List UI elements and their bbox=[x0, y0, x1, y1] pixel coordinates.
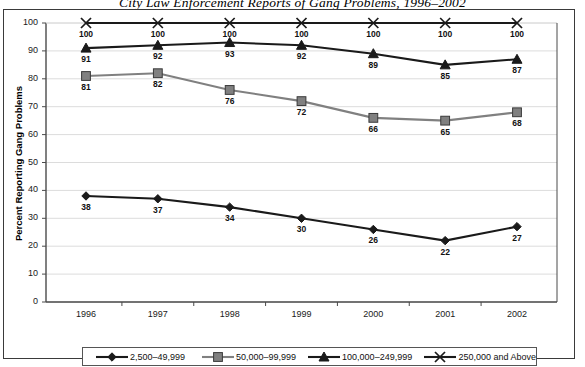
y-axis-tick-label: 80 bbox=[12, 73, 38, 83]
marker-square bbox=[513, 108, 522, 117]
legend-label: 100,000–249,999 bbox=[341, 352, 412, 362]
y-axis-tick-label: 40 bbox=[12, 184, 38, 194]
legend-marker-x-icon bbox=[423, 350, 457, 364]
y-axis-tick-label: 100 bbox=[12, 17, 38, 27]
data-point-label: 87 bbox=[497, 65, 537, 75]
data-point-label: 92 bbox=[282, 51, 322, 61]
data-point-label: 72 bbox=[282, 107, 322, 117]
marker-square bbox=[441, 116, 450, 125]
data-point-label: 68 bbox=[497, 118, 537, 128]
x-axis-tick-label: 1996 bbox=[56, 309, 116, 319]
legend-entry[interactable]: 2,500–49,999 bbox=[83, 348, 201, 365]
marker-square bbox=[297, 97, 306, 106]
legend-entry[interactable]: 250,000 and Above bbox=[423, 348, 536, 365]
data-point-label: 89 bbox=[353, 60, 393, 70]
data-point-label: 85 bbox=[425, 71, 465, 81]
data-point-label: 66 bbox=[353, 124, 393, 134]
x-axis-tick-label: 1998 bbox=[200, 309, 260, 319]
data-point-label: 65 bbox=[425, 127, 465, 137]
chart-figure: City Law Enforcement Reports of Gang Pro… bbox=[0, 0, 585, 367]
y-axis-tick-label: 10 bbox=[12, 268, 38, 278]
legend-marker-triangle-icon bbox=[307, 350, 341, 364]
marker-diamond bbox=[297, 214, 305, 222]
legend-label: 250,000 and Above bbox=[457, 352, 536, 362]
data-point-label: 27 bbox=[497, 233, 537, 243]
y-axis-tick-label: 30 bbox=[12, 212, 38, 222]
marker-diamond bbox=[82, 192, 90, 200]
data-point-label: 92 bbox=[138, 51, 178, 61]
legend-label: 50,000–99,999 bbox=[235, 352, 296, 362]
data-point-label: 100 bbox=[210, 29, 250, 39]
x-axis-tick-label: 1997 bbox=[128, 309, 188, 319]
marker-square bbox=[369, 113, 378, 122]
x-axis-tick-label: 2002 bbox=[487, 309, 547, 319]
y-axis-tick-label: 90 bbox=[12, 45, 38, 55]
marker-square bbox=[153, 69, 162, 78]
x-axis-tick-label: 1999 bbox=[272, 309, 332, 319]
x-axis-tick-label: 2001 bbox=[415, 309, 475, 319]
legend-marker-square-icon bbox=[201, 350, 235, 364]
x-axis-tick-label: 2000 bbox=[343, 309, 403, 319]
data-point-label: 30 bbox=[282, 224, 322, 234]
data-point-label: 100 bbox=[497, 29, 537, 39]
y-axis-tick-label: 70 bbox=[12, 101, 38, 111]
legend-entry[interactable]: 100,000–249,999 bbox=[307, 348, 423, 365]
marker-diamond bbox=[108, 352, 116, 360]
data-point-label: 91 bbox=[66, 54, 106, 64]
legend-entry[interactable]: 50,000–99,999 bbox=[201, 348, 307, 365]
data-point-label: 81 bbox=[66, 82, 106, 92]
data-point-label: 100 bbox=[353, 29, 393, 39]
y-axis-tick-label: 60 bbox=[12, 129, 38, 139]
marker-square bbox=[214, 352, 223, 361]
data-point-label: 38 bbox=[66, 202, 106, 212]
data-point-label: 100 bbox=[66, 29, 106, 39]
y-axis-tick-label: 20 bbox=[12, 240, 38, 250]
marker-square bbox=[225, 86, 234, 95]
marker-diamond bbox=[225, 203, 233, 211]
data-point-label: 22 bbox=[425, 247, 465, 257]
axes bbox=[42, 23, 557, 306]
chart-outer-frame: Percent Reporting Gang Problems 01020304… bbox=[3, 9, 575, 359]
y-axis-tick-label: 50 bbox=[12, 157, 38, 167]
legend-marker-diamond-icon bbox=[95, 350, 129, 364]
legend-label: 2,500–49,999 bbox=[129, 352, 185, 362]
chart-legend: 2,500–49,99950,000–99,999100,000–249,999… bbox=[82, 347, 537, 366]
marker-diamond bbox=[369, 225, 377, 233]
y-axis-tick-label: 0 bbox=[12, 296, 38, 306]
marker-square bbox=[82, 72, 91, 81]
data-point-label: 93 bbox=[210, 49, 250, 59]
data-point-label: 26 bbox=[353, 235, 393, 245]
marker-diamond bbox=[441, 236, 449, 244]
data-point-label: 37 bbox=[138, 205, 178, 215]
data-point-label: 34 bbox=[210, 213, 250, 223]
marker-diamond bbox=[513, 222, 521, 230]
data-point-label: 82 bbox=[138, 79, 178, 89]
data-point-label: 100 bbox=[138, 29, 178, 39]
data-point-label: 100 bbox=[425, 29, 465, 39]
data-point-label: 100 bbox=[282, 29, 322, 39]
gridlines bbox=[46, 23, 557, 302]
data-point-label: 76 bbox=[210, 96, 250, 106]
marker-diamond bbox=[154, 195, 162, 203]
